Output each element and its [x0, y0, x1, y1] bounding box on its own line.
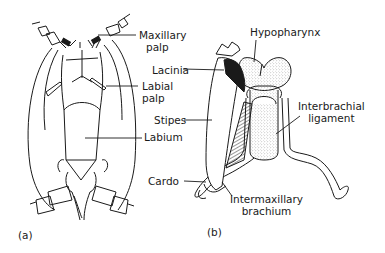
- label-labial-palp: Labial palp: [142, 80, 173, 104]
- label-lacinia: Lacinia: [152, 64, 189, 76]
- mouthparts-figure: Maxillary palp Labial palp Labium (a) Hy…: [0, 0, 385, 253]
- label-intermaxillary-line1: Intermaxillary: [230, 193, 303, 205]
- label-labial-palp-line2: palp: [142, 92, 173, 104]
- label-cardo: Cardo: [148, 175, 179, 187]
- label-interbrachial-line2: ligament: [298, 112, 365, 124]
- label-labial-palp-line1: Labial: [142, 80, 173, 92]
- label-maxillary-palp: Maxillary palp: [139, 29, 186, 53]
- panel-a-leaders: [85, 35, 142, 138]
- label-interbrachial-ligament: Interbrachial ligament: [298, 100, 365, 124]
- label-intermaxillary-brachium: Intermaxillary brachium: [230, 193, 303, 217]
- diagram-drawing: [0, 0, 385, 253]
- label-interbrachial-line1: Interbrachial: [298, 100, 365, 112]
- label-intermaxillary-line2: brachium: [230, 205, 303, 217]
- panel-a-caption: (a): [18, 229, 33, 241]
- label-labium: Labium: [144, 131, 183, 143]
- label-maxillary-palp-line1: Maxillary: [139, 29, 186, 41]
- label-hypopharynx: Hypopharynx: [250, 26, 320, 38]
- panel-a-drawing: [28, 14, 136, 220]
- label-stipes: Stipes: [154, 114, 186, 126]
- panel-b-caption: (b): [207, 226, 222, 238]
- label-maxillary-palp-line2: palp: [139, 41, 186, 53]
